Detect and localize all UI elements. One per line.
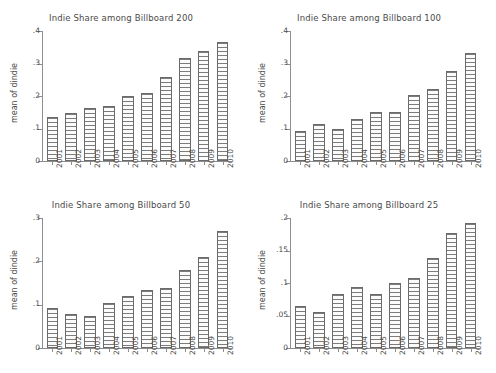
x-tick-mark [223,162,224,165]
x-tick-label: 2006 [150,149,159,168]
bar [446,71,458,161]
bar [427,258,439,348]
x-tick-mark [471,349,472,352]
y-tick-label: .4 [281,26,288,35]
x-tick-mark [204,349,205,352]
bar [198,51,210,161]
x-tick-label: 2010 [226,336,235,355]
y-axis-label: mean of dindie [10,38,19,148]
x-tick-mark [90,162,91,165]
x-tick-label: 2003 [93,336,102,355]
x-tick-mark [338,349,339,352]
x-tick-mark [109,349,110,352]
x-tick-mark [223,349,224,352]
x-tick-label: 2010 [474,149,483,168]
y-tick-label: .3 [281,58,288,67]
x-tick-label: 2005 [379,149,388,168]
x-tick-label: 2009 [455,336,464,355]
x-tick-mark [433,162,434,165]
x-tick-mark [204,162,205,165]
x-tick-label: 2010 [226,149,235,168]
y-tick-label: .3 [33,213,40,222]
x-tick-mark [338,162,339,165]
bar-series: 2001200220032004200520062007200820092010 [43,31,232,161]
x-tick-label: 2009 [207,336,216,355]
bar-series: 2001200220032004200520062007200820092010 [291,31,480,161]
figure-canvas: Indie Share among Billboard 200 mean of … [0,0,496,373]
bar [179,58,191,161]
x-tick-mark [109,162,110,165]
y-tick-label: .05 [276,310,288,319]
x-tick-mark [376,349,377,352]
x-tick-label: 2003 [93,149,102,168]
x-tick-label: 2010 [474,336,483,355]
x-tick-label: 2006 [398,149,407,168]
x-tick-label: 2002 [322,149,331,168]
x-tick-mark [185,349,186,352]
y-tick-label: 0 [35,343,40,352]
x-tick-mark [147,349,148,352]
bar-series: 2001200220032004200520062007200820092010 [43,218,232,348]
x-tick-label: 2004 [360,149,369,168]
chart-panel-billboard-200: Indie Share among Billboard 200 mean of … [0,0,248,186]
x-tick-mark [395,162,396,165]
x-tick-label: 2007 [417,336,426,355]
x-tick-label: 2004 [112,336,121,355]
panel-title: Indie Share among Billboard 200 [0,13,242,23]
plot-area: 2001200220032004200520062007200820092010… [42,31,238,161]
x-tick-label: 2008 [436,149,445,168]
x-tick-label: 2009 [455,149,464,168]
x-tick-mark [395,349,396,352]
x-tick-label: 2005 [379,336,388,355]
x-tick-mark [128,162,129,165]
x-tick-label: 2008 [188,336,197,355]
x-tick-mark [52,349,53,352]
chart-panel-billboard-100: Indie Share among Billboard 100 mean of … [248,0,496,186]
y-tick-label: .2 [281,213,288,222]
panel-title: Indie Share among Billboard 100 [248,13,490,23]
x-tick-label: 2005 [131,149,140,168]
x-tick-mark [300,162,301,165]
x-tick-mark [433,349,434,352]
y-tick-label: .1 [33,299,40,308]
y-axis-label: mean of dindie [258,38,267,148]
x-tick-mark [300,349,301,352]
x-tick-label: 2001 [55,149,64,168]
chart-panel-billboard-25: Indie Share among Billboard 25 mean of d… [248,187,496,373]
y-tick-label: .2 [33,256,40,265]
x-tick-mark [90,349,91,352]
chart-panel-billboard-50: Indie Share among Billboard 50 mean of d… [0,187,248,373]
x-tick-label: 2001 [303,149,312,168]
x-tick-mark [357,349,358,352]
x-tick-mark [71,162,72,165]
x-tick-mark [452,349,453,352]
x-tick-mark [414,349,415,352]
bar [198,257,210,348]
x-tick-mark [357,162,358,165]
x-tick-mark [319,349,320,352]
bar [217,231,229,348]
x-tick-mark [71,349,72,352]
y-tick-label: 0 [283,343,288,352]
y-tick-label: .2 [281,91,288,100]
bar [446,233,458,348]
x-tick-mark [52,162,53,165]
x-tick-label: 2002 [74,336,83,355]
x-tick-mark [166,162,167,165]
x-tick-label: 2007 [417,149,426,168]
x-tick-label: 2002 [74,149,83,168]
y-tick-label: .1 [281,278,288,287]
x-tick-mark [319,162,320,165]
y-tick-label: 0 [35,156,40,165]
y-tick-label: 0 [283,156,288,165]
panel-title: Indie Share among Billboard 25 [248,200,490,210]
x-tick-label: 2004 [360,336,369,355]
plot-area: 2001200220032004200520062007200820092010… [290,218,486,348]
y-axis-label: mean of dindie [10,225,19,335]
bar-series: 2001200220032004200520062007200820092010 [291,218,480,348]
x-tick-label: 2007 [169,336,178,355]
x-tick-label: 2008 [436,336,445,355]
x-tick-label: 2007 [169,149,178,168]
y-tick-label: .2 [33,91,40,100]
x-tick-label: 2006 [398,336,407,355]
